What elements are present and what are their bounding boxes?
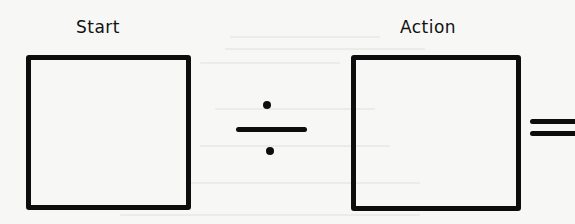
bleed-through-line	[225, 48, 425, 50]
equals-bottom-bar	[530, 131, 575, 136]
equals-top-bar	[530, 119, 575, 124]
bleed-through-line	[230, 36, 380, 38]
equation-diagram: Start Action	[0, 0, 575, 224]
start-box	[26, 55, 191, 210]
start-label: Start	[38, 17, 158, 37]
action-box	[351, 55, 521, 211]
divide-top-dot	[263, 101, 271, 109]
bleed-through-line	[120, 214, 420, 216]
divide-bar	[236, 127, 307, 132]
bleed-through-line	[200, 62, 340, 64]
divide-bottom-dot	[266, 147, 274, 155]
action-label: Action	[368, 17, 488, 37]
